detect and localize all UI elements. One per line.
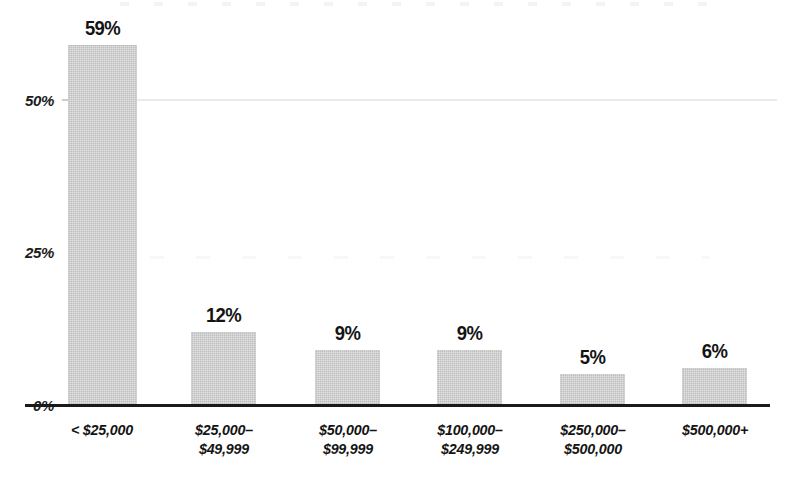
x-axis-category-4: $250,000– $500,000 — [532, 420, 654, 458]
bar-3[interactable] — [437, 350, 502, 405]
bar-2[interactable] — [315, 350, 380, 405]
y-axis-label-25: 25% — [8, 244, 54, 261]
bar-value-4: 5% — [564, 345, 621, 369]
x-axis-category-5: $500,000+ — [654, 420, 776, 439]
x-axis-category-0: < $25,000 — [41, 420, 163, 439]
gridline-50 — [132, 100, 777, 101]
x-axis-category-2: $50,000– $99,999 — [287, 420, 409, 458]
x-axis-category-1: $25,000– $49,999 — [163, 420, 285, 458]
bar-value-1: 12% — [195, 303, 252, 327]
bar-value-5: 6% — [686, 339, 743, 363]
bar-value-0: 59% — [72, 16, 133, 40]
bar-5[interactable] — [682, 368, 747, 405]
bar-4[interactable] — [560, 374, 625, 405]
y-axis-label-50: 50% — [8, 92, 54, 109]
plot-area: 50% 25% 0% 59% 12% 9% 9% 5% 6% < $25,000… — [0, 0, 785, 483]
bar-value-2: 9% — [319, 321, 376, 345]
bar-1[interactable] — [191, 332, 256, 405]
scan-artifact — [150, 256, 710, 259]
x-axis-category-3: $100,000– $249,999 — [409, 420, 531, 458]
x-axis-baseline — [25, 404, 770, 407]
bar-0[interactable] — [68, 45, 137, 405]
bar-chart: 50% 25% 0% 59% 12% 9% 9% 5% 6% < $25,000… — [0, 0, 785, 483]
bar-value-3: 9% — [441, 321, 498, 345]
scan-artifact — [120, 2, 720, 6]
